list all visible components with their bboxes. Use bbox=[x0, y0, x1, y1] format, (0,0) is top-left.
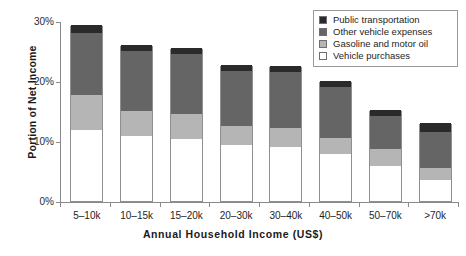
bar-segment-gasoline-and-motor-oil[interactable] bbox=[420, 168, 451, 180]
bar-stack[interactable] bbox=[170, 49, 203, 202]
x-axis-tick bbox=[209, 202, 210, 207]
bar-segment-vehicle-purchases[interactable] bbox=[370, 166, 401, 201]
x-axis-tick bbox=[359, 202, 360, 207]
legend: Public transportationOther vehicle expen… bbox=[313, 10, 458, 67]
bar-segment-vehicle-purchases[interactable] bbox=[221, 145, 252, 201]
bar-stack[interactable] bbox=[369, 111, 402, 202]
bar-segment-other-vehicle-expenses[interactable] bbox=[171, 54, 202, 114]
bar-group[interactable] bbox=[120, 22, 153, 202]
bar-segment-gasoline-and-motor-oil[interactable] bbox=[71, 95, 102, 130]
bar-segment-vehicle-purchases[interactable] bbox=[320, 154, 351, 201]
x-axis-tick bbox=[160, 202, 161, 207]
legend-item-label: Public transportation bbox=[333, 15, 420, 25]
y-axis-tick bbox=[56, 142, 61, 143]
bar-stack[interactable] bbox=[419, 124, 452, 202]
y-axis-tick-label: 10% bbox=[18, 137, 54, 147]
bar-stack[interactable] bbox=[269, 67, 302, 202]
bar-segment-gasoline-and-motor-oil[interactable] bbox=[370, 149, 401, 166]
bar-group[interactable] bbox=[269, 22, 302, 202]
bar-stack[interactable] bbox=[70, 26, 103, 202]
y-axis-tick bbox=[56, 22, 61, 23]
legend-swatch-icon bbox=[319, 16, 327, 24]
legend-item-label: Other vehicle expenses bbox=[333, 27, 432, 37]
legend-item[interactable]: Vehicle purchases bbox=[319, 51, 453, 63]
bar-group[interactable] bbox=[70, 22, 103, 202]
bar-segment-gasoline-and-motor-oil[interactable] bbox=[221, 126, 252, 145]
bar-segment-other-vehicle-expenses[interactable] bbox=[370, 116, 401, 149]
bar-segment-gasoline-and-motor-oil[interactable] bbox=[270, 128, 301, 147]
bar-segment-vehicle-purchases[interactable] bbox=[270, 147, 301, 201]
bar-group[interactable] bbox=[170, 22, 203, 202]
legend-swatch-icon bbox=[319, 40, 327, 48]
x-axis-title: Annual Household Income (US$) bbox=[0, 228, 466, 240]
y-axis-line bbox=[60, 22, 61, 202]
bar-segment-vehicle-purchases[interactable] bbox=[171, 139, 202, 201]
bar-stack[interactable] bbox=[120, 46, 153, 202]
bar-segment-other-vehicle-expenses[interactable] bbox=[270, 72, 301, 128]
bar-group[interactable] bbox=[220, 22, 253, 202]
bar-segment-other-vehicle-expenses[interactable] bbox=[420, 132, 451, 168]
bar-segment-public-transportation[interactable] bbox=[370, 110, 401, 116]
bar-stack[interactable] bbox=[220, 66, 253, 202]
bar-segment-public-transportation[interactable] bbox=[320, 81, 351, 87]
legend-item[interactable]: Other vehicle expenses bbox=[319, 27, 453, 39]
bar-segment-other-vehicle-expenses[interactable] bbox=[221, 71, 252, 126]
bar-segment-other-vehicle-expenses[interactable] bbox=[121, 51, 152, 111]
y-axis-tick-label: 0% bbox=[18, 197, 54, 207]
legend-swatch-icon bbox=[319, 28, 327, 36]
bar-segment-public-transportation[interactable] bbox=[171, 48, 202, 54]
legend-item[interactable]: Public transportation bbox=[319, 15, 453, 27]
x-axis-tick bbox=[309, 202, 310, 207]
y-axis-tick bbox=[56, 82, 61, 83]
x-axis-tick bbox=[259, 202, 260, 207]
bar-segment-vehicle-purchases[interactable] bbox=[71, 130, 102, 201]
bar-segment-public-transportation[interactable] bbox=[121, 45, 152, 51]
bar-segment-other-vehicle-expenses[interactable] bbox=[320, 87, 351, 138]
bar-segment-public-transportation[interactable] bbox=[71, 25, 102, 33]
bar-segment-gasoline-and-motor-oil[interactable] bbox=[320, 138, 351, 154]
y-axis-tick-label: 30% bbox=[18, 17, 54, 27]
bar-segment-vehicle-purchases[interactable] bbox=[121, 136, 152, 201]
bar-segment-gasoline-and-motor-oil[interactable] bbox=[121, 111, 152, 136]
x-axis-tick bbox=[458, 202, 459, 207]
x-axis-tick bbox=[110, 202, 111, 207]
stacked-bar-chart: Portion of Net Income 0%10%20%30% 5–10k1… bbox=[0, 0, 466, 256]
legend-item-label: Vehicle purchases bbox=[333, 51, 410, 61]
x-axis-tick bbox=[60, 202, 61, 207]
bar-segment-public-transportation[interactable] bbox=[420, 123, 451, 132]
legend-item-label: Gasoline and motor oil bbox=[333, 39, 428, 49]
bar-segment-public-transportation[interactable] bbox=[270, 66, 301, 72]
bar-segment-other-vehicle-expenses[interactable] bbox=[71, 33, 102, 95]
bar-stack[interactable] bbox=[319, 82, 352, 202]
x-axis-tick bbox=[408, 202, 409, 207]
legend-swatch-icon bbox=[319, 52, 327, 60]
bar-segment-vehicle-purchases[interactable] bbox=[420, 180, 451, 201]
legend-item[interactable]: Gasoline and motor oil bbox=[319, 39, 453, 51]
bar-segment-public-transportation[interactable] bbox=[221, 65, 252, 71]
bar-segment-gasoline-and-motor-oil[interactable] bbox=[171, 114, 202, 139]
y-axis-tick-label: 20% bbox=[18, 77, 54, 87]
x-axis-tick-label: >70k bbox=[395, 210, 466, 221]
